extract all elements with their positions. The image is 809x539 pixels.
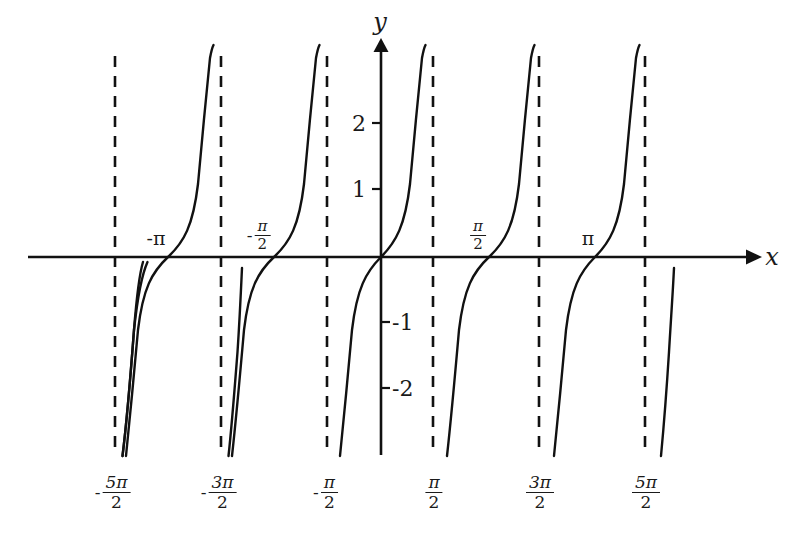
x-tick-label-pi-over-2: π2 bbox=[469, 219, 487, 252]
fraction-pi-over-2: π2 bbox=[470, 219, 486, 252]
bottom-label-neg-3pi-over-2: -3π2 bbox=[201, 474, 238, 511]
tangent-branch-pos-pi bbox=[554, 45, 640, 456]
fraction-numerator: π bbox=[254, 219, 270, 236]
fraction-numerator: π bbox=[425, 474, 442, 493]
bottom-label-3pi-over-2: 3π2 bbox=[525, 474, 555, 511]
fraction: 5π2 bbox=[632, 474, 660, 511]
minus-sign: - bbox=[247, 227, 254, 244]
fraction-pi-over-2: π2 bbox=[254, 219, 270, 252]
x-tick-label-pi: π bbox=[582, 227, 595, 249]
x-tick-label-neg-pi-over-2: -π2 bbox=[247, 219, 272, 252]
fraction-numerator: π bbox=[321, 474, 338, 493]
y-tick-label-neg-2: -2 bbox=[392, 376, 413, 401]
fraction-numerator: π bbox=[470, 219, 486, 236]
bottom-label-5pi-over-2: 5π2 bbox=[631, 474, 661, 511]
fraction: 3π2 bbox=[526, 474, 554, 511]
x-axis-arrowhead bbox=[746, 250, 762, 265]
fraction-denominator: 2 bbox=[255, 236, 271, 252]
y-tick-label-1: 1 bbox=[352, 177, 366, 202]
tangent-branch-pos-2pi bbox=[661, 268, 674, 456]
x-tick-label-neg-pi: -π bbox=[147, 227, 166, 249]
plot-canvas: x y 2 1 -1 -2 -π π bbox=[0, 0, 809, 539]
tangent-branch-neg-pi-over-2-left bbox=[232, 45, 320, 456]
fraction-numerator: 5π bbox=[632, 474, 660, 493]
y-axis-label: y bbox=[372, 8, 387, 36]
fraction-denominator: 2 bbox=[470, 236, 486, 252]
fraction-numerator: 5π bbox=[102, 474, 130, 493]
bottom-label-pi-over-2: π2 bbox=[424, 474, 443, 511]
fraction-denominator: 2 bbox=[108, 493, 125, 511]
y-tick-label-2: 2 bbox=[352, 111, 366, 136]
fraction-numerator: 3π bbox=[208, 474, 236, 493]
fraction-denominator: 2 bbox=[214, 493, 231, 511]
bottom-label-neg-5pi-over-2: -5π2 bbox=[95, 474, 132, 511]
minus-sign: - bbox=[313, 484, 320, 501]
fraction-numerator: 3π bbox=[526, 474, 554, 493]
fraction: π2 bbox=[321, 474, 338, 511]
fraction-denominator: 2 bbox=[321, 493, 338, 511]
tangent-branch-pi-over-2-right bbox=[447, 45, 535, 456]
fraction: 3π2 bbox=[208, 474, 236, 511]
fraction-denominator: 2 bbox=[638, 493, 655, 511]
minus-sign: - bbox=[201, 484, 208, 501]
tangent-branch-neg-pi-main bbox=[126, 45, 214, 456]
minus-sign: - bbox=[95, 484, 102, 501]
fraction: π2 bbox=[425, 474, 442, 511]
x-axis-label: x bbox=[765, 243, 779, 271]
fraction-denominator: 2 bbox=[426, 493, 443, 511]
tangent-graph-figure: x y 2 1 -1 -2 -π π -π2 π2 -5π2 -3π2 -π2 … bbox=[0, 0, 809, 539]
y-axis-arrowhead bbox=[374, 38, 389, 52]
fraction: 5π2 bbox=[102, 474, 130, 511]
bottom-label-neg-pi-over-2: -π2 bbox=[313, 474, 339, 511]
y-tick-label-neg-1: -1 bbox=[392, 310, 413, 335]
fraction-denominator: 2 bbox=[532, 493, 549, 511]
